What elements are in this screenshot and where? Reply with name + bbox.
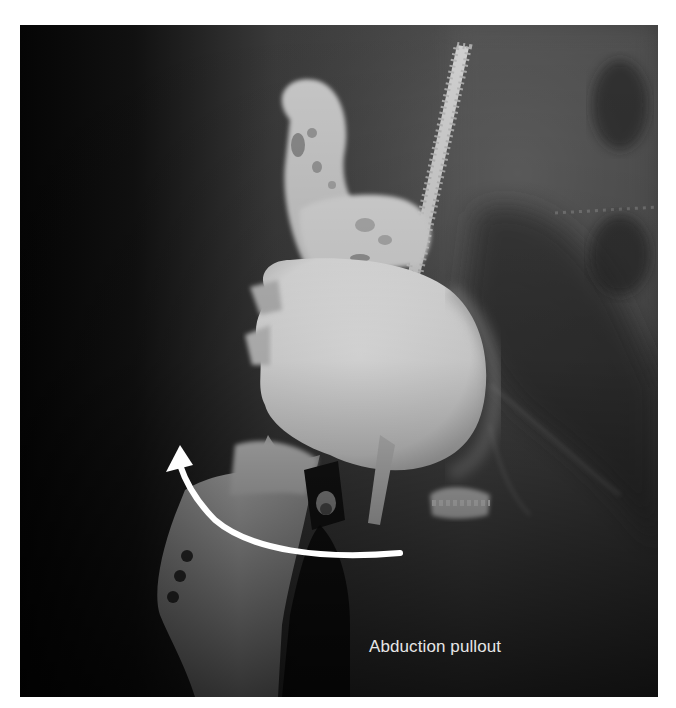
caption-label: Abduction pullout [369, 637, 501, 657]
radiograph-illustration [20, 25, 658, 697]
radiograph-image: Abduction pullout [20, 25, 658, 697]
